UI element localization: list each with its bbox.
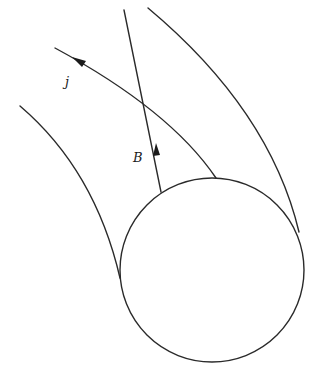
field-label: B xyxy=(132,150,143,165)
diagram-canvas: j B xyxy=(0,0,329,392)
magnetosphere-diagram: j B xyxy=(0,0,329,392)
right-outer-field-line xyxy=(148,8,299,232)
field-arrow-icon xyxy=(153,143,160,156)
current-arrow-icon xyxy=(72,57,86,67)
sphere xyxy=(120,178,304,362)
left-outer-field-line xyxy=(20,106,120,278)
current-label: j xyxy=(62,74,69,89)
